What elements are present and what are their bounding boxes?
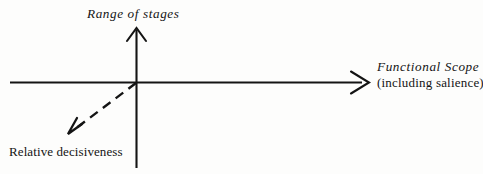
axis-diagram-figure: Range of stages Functional Scope (includ… [0,0,483,174]
diagonal-axis-arrowhead-icon [68,118,82,134]
y-axis-group [127,28,146,168]
x-axis-group [10,72,369,94]
x-axis-label-line1: Functional Scope [377,59,479,74]
x-axis-label: Functional Scope (including salience) [377,60,483,90]
x-axis-label-line2: (including salience) [377,76,483,91]
diagonal-axis-dashed-line [75,83,136,129]
y-axis-label: Range of stages [87,7,180,22]
diagonal-axis-label: Relative decisiveness [9,145,123,160]
diagonal-axis-group [68,83,136,134]
